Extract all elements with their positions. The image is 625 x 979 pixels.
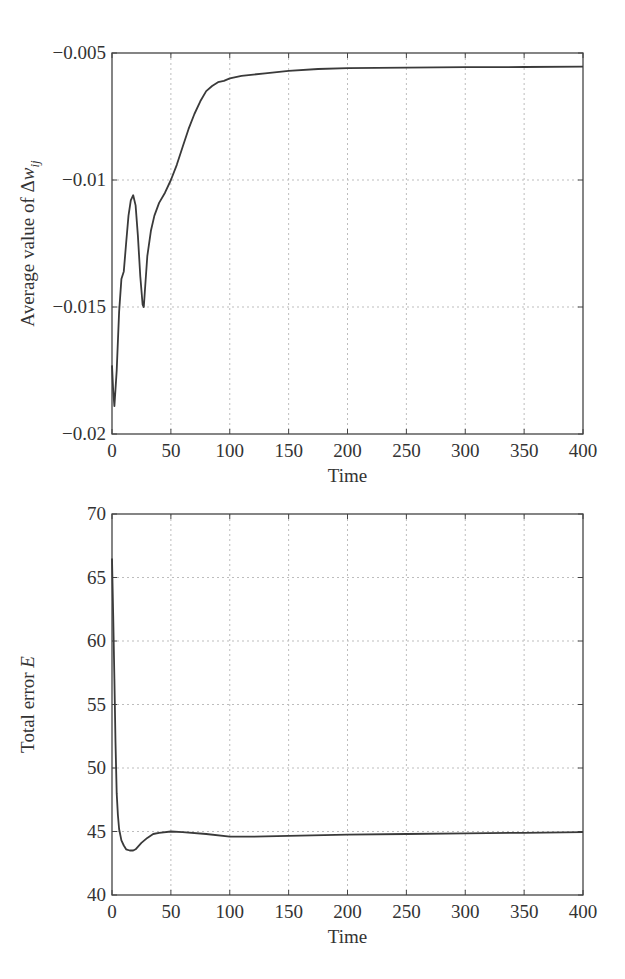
y-tick-label: 70 bbox=[87, 503, 106, 524]
x-tick-label: 0 bbox=[107, 901, 117, 922]
y-tick-label: 60 bbox=[87, 630, 106, 651]
x-tick-label: 50 bbox=[161, 901, 180, 922]
x-tick-label: 350 bbox=[510, 901, 539, 922]
x-tick-label: 300 bbox=[451, 901, 480, 922]
y-tick-label: 40 bbox=[87, 884, 106, 905]
x-tick-labels: 050100150200250300350400 bbox=[107, 901, 597, 922]
y-axis-label: Total error E bbox=[17, 656, 38, 753]
y-tick-label: 50 bbox=[87, 757, 106, 778]
y-tick-labels: 40455055606570 bbox=[87, 503, 106, 905]
x-tick-label: 200 bbox=[333, 901, 362, 922]
x-tick-label: 250 bbox=[392, 901, 421, 922]
x-tick-label: 100 bbox=[216, 901, 245, 922]
x-tick-label: 400 bbox=[569, 901, 598, 922]
grid-lines bbox=[112, 514, 583, 895]
x-tick-label: 150 bbox=[274, 901, 303, 922]
x-axis-label: Time bbox=[328, 926, 367, 947]
y-tick-label: 65 bbox=[87, 567, 106, 588]
chart-canvas: 05010015020025030035040040455055606570Ti… bbox=[0, 0, 625, 979]
chart-total-error: 05010015020025030035040040455055606570Ti… bbox=[0, 0, 625, 979]
y-tick-label: 55 bbox=[87, 694, 106, 715]
y-tick-label: 45 bbox=[87, 821, 106, 842]
